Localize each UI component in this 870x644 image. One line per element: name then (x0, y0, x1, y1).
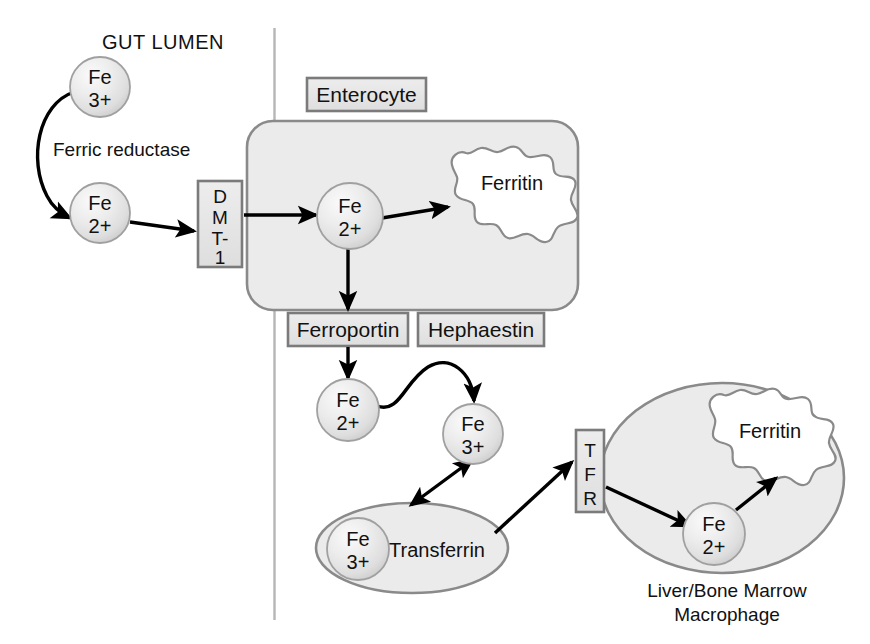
ferritin-label-macrophage: Ferritin (739, 420, 801, 442)
hephaestin-oxidation-arrow (377, 363, 474, 408)
ferric-to-transferrin-arrow (411, 460, 472, 505)
transferrin-to-tfr-arrow (495, 462, 572, 533)
diagram-canvas: Enterocyte Ferroportin Hephaestin D M T-… (0, 0, 870, 644)
enterocyte-ferrous-element: Fe (338, 195, 361, 217)
dmt1-letter-m: M (212, 207, 228, 228)
lumen-ferrous-charge: 2+ (89, 215, 112, 237)
enterocyte-ferrous-charge: 2+ (339, 218, 362, 240)
dmt1-letter-d: D (213, 186, 227, 207)
transferrin-ferric-charge: 3+ (347, 551, 370, 573)
gut-lumen-heading: GUT LUMEN (102, 31, 224, 53)
hephaestin-label: Hephaestin (428, 318, 534, 341)
macrophage-ferrous-charge: 2+ (703, 536, 726, 558)
basolateral-ferrous-charge: 2+ (337, 412, 360, 434)
enterocyte-label: Enterocyte (316, 83, 416, 106)
dmt1-letter-t: T- (212, 228, 229, 249)
macrophage-ferrous-element: Fe (702, 513, 725, 535)
ferritin-label-enterocyte: Ferritin (481, 172, 543, 194)
lumen-ferric-charge: 3+ (89, 89, 112, 111)
transferrin-ferric-element: Fe (346, 528, 369, 550)
iron-absorption-diagram: Enterocyte Ferroportin Hephaestin D M T-… (0, 0, 870, 644)
tfr-letter-f: F (584, 464, 596, 485)
tfr-letter-t: T (584, 440, 596, 461)
dmt1-letter-1: 1 (215, 247, 226, 268)
basolateral-ferrous-element: Fe (336, 389, 359, 411)
lumen-ferric-element: Fe (88, 66, 111, 88)
ferric-reductase-label: Ferric reductase (53, 139, 190, 160)
lumen-ferrous-element: Fe (88, 192, 111, 214)
ferrous-to-dmt1-arrow (130, 222, 194, 231)
ferroportin-label: Ferroportin (297, 318, 400, 341)
macrophage-caption-line1: Liver/Bone Marrow (647, 580, 807, 601)
tfr-letter-r: R (583, 488, 597, 509)
basolateral-ferric-element: Fe (461, 413, 484, 435)
transferrin-label: Transferrin (389, 539, 485, 561)
basolateral-ferric-charge: 3+ (462, 436, 485, 458)
macrophage-caption-line2: Macrophage (674, 604, 780, 625)
